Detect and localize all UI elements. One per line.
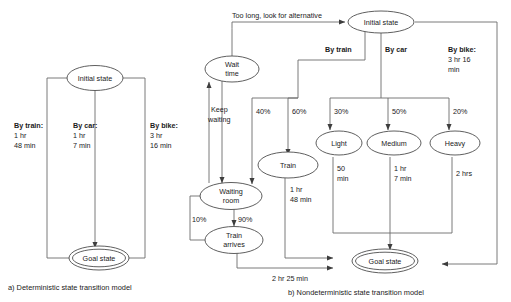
left-caption: a) Deterministic state transition model <box>8 283 132 292</box>
nd-keep-waiting-l2: waiting <box>207 115 230 124</box>
nd-node-train-arrives: Train arrives <box>205 227 263 254</box>
nondeterministic-model: Initial state Wait time Waiting room Tra… <box>190 11 497 297</box>
edge-by-bike <box>112 78 145 258</box>
nd-node-initial-state: Initial state <box>348 11 414 33</box>
det-label-by-bike: By bike: 3 hr 16 min <box>150 121 178 150</box>
nd-by-bike-head: By bike: <box>448 45 476 54</box>
nd-label-30: 30% <box>334 107 349 116</box>
det-by-train-l2: 1 hr <box>14 131 27 140</box>
det-by-car-l2: 1 hr <box>73 131 86 140</box>
det-by-train-l3: 48 min <box>14 141 36 150</box>
nd-label-40: 40% <box>256 107 271 116</box>
nd-light-time-l1: 50 <box>337 164 345 173</box>
nd-label-by-bike: By bike: 3 hr 16 min <box>448 45 476 74</box>
det-by-car-l3: 7 min <box>73 141 91 150</box>
nd-label-90: 90% <box>238 215 253 224</box>
nd-node-waiting-room: Waiting room <box>200 183 262 210</box>
edge-heavy-to-goal <box>411 157 452 233</box>
det-node-goal-state: Goal state <box>69 246 129 270</box>
det-label-by-car: By car: 1 hr 7 min <box>73 121 97 150</box>
det-node-initial-state: Initial state <box>67 66 123 91</box>
det-goal-state-label: Goal state <box>83 254 116 263</box>
edge-by-train-branch <box>298 32 365 98</box>
nd-waiting-room-l1: Waiting <box>219 187 243 196</box>
det-by-bike-l3: 16 min <box>150 141 172 150</box>
nd-node-train: Train <box>258 152 318 178</box>
nd-label-10: 10% <box>192 215 207 224</box>
nd-label-by-train: By train <box>325 45 352 54</box>
det-by-car-head: By car: <box>73 121 97 130</box>
nd-node-wait-time: Wait time <box>205 56 259 82</box>
nd-train-arrives-l2: arrives <box>223 240 245 249</box>
nd-label-bike-total: 2 hr 25 min <box>272 274 308 283</box>
nd-goal-state-label: Goal state <box>369 257 402 266</box>
nd-label-heavy-time: 2 hrs <box>456 169 472 178</box>
nd-node-heavy: Heavy <box>430 131 480 155</box>
edge-by-train <box>47 78 86 258</box>
det-by-bike-l2: 3 hr <box>150 131 163 140</box>
nd-node-medium: Medium <box>367 131 421 155</box>
nd-label-medium-time: 1 hr 7 min <box>394 164 412 183</box>
nd-label-50: 50% <box>392 107 407 116</box>
deterministic-model: Initial state Goal state By train: 1 hr … <box>8 66 178 293</box>
nd-medium-time-l2: 7 min <box>394 174 412 183</box>
nd-by-bike-l3: min <box>448 65 460 74</box>
nd-train-time-l2: 48 min <box>290 195 312 204</box>
nd-train-label: Train <box>280 161 296 170</box>
nd-keep-waiting-l1: Keep <box>211 105 228 114</box>
nd-label-train-time: 1 hr 48 min <box>290 185 312 204</box>
det-by-bike-head: By bike: <box>150 121 178 130</box>
nd-initial-state-label: Initial state <box>364 18 398 27</box>
nd-light-time-l2: min <box>337 174 349 183</box>
right-caption: b) Nondeterministic state transition mod… <box>288 288 424 297</box>
nd-wait-time-l1: Wait <box>225 60 239 69</box>
nd-label-by-car: By car <box>385 45 407 54</box>
nd-heavy-label: Heavy <box>445 139 466 148</box>
nd-wait-time-l2: time <box>225 69 239 78</box>
nd-label-too-long: Too long, look for alternative <box>232 11 322 20</box>
nd-medium-label: Medium <box>381 139 407 148</box>
nd-label-keep-waiting: Keep waiting <box>207 105 230 124</box>
det-by-train-head: By train: <box>14 121 43 130</box>
figure-canvas: Initial state Goal state By train: 1 hr … <box>0 0 511 302</box>
nd-train-time-l1: 1 hr <box>290 185 303 194</box>
nd-by-bike-l2: 3 hr 16 <box>448 55 470 64</box>
nd-node-goal-state: Goal state <box>352 249 418 273</box>
nd-train-arrives-l1: Train <box>226 231 242 240</box>
nd-label-60: 60% <box>292 107 307 116</box>
nd-waiting-room-l2: room <box>223 196 239 205</box>
nd-medium-time-l1: 1 hr <box>394 164 407 173</box>
state-transition-diagrams: Initial state Goal state By train: 1 hr … <box>0 0 511 302</box>
nd-label-20: 20% <box>453 107 468 116</box>
det-label-by-train: By train: 1 hr 48 min <box>14 121 43 150</box>
nd-label-light-time: 50 min <box>337 164 349 183</box>
det-initial-state-label: Initial state <box>78 74 112 83</box>
nd-light-label: Light <box>331 139 347 148</box>
nd-node-light: Light <box>316 131 362 155</box>
